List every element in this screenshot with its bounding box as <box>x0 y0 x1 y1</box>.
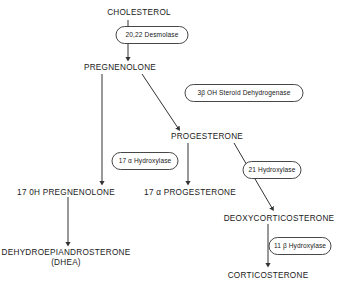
node-deoxycorticosterone: DEOXYCORTICOSTERONE <box>224 214 335 224</box>
enzyme-label-20-22-desmolase: 20,22 Desmolase <box>126 31 179 39</box>
enzyme-label-21-hydroxylase: 21 Hydroxylase <box>249 166 296 174</box>
enzyme-label-3-beta-oh-steroid-dehydrogenase: 3β OH Steroid Dehydrogenase <box>198 89 291 97</box>
node-progesterone: PROGESTERONE <box>171 132 243 142</box>
node-dehydroepiandrosterone: DEHYDROEPIANDROSTERONE <box>2 248 131 258</box>
steroidogenesis-pathway-diagram: CHOLESTEROL PREGNENOLONE PROGESTERONE 17… <box>0 0 342 288</box>
node-cholesterol: CHOLESTEROL <box>107 8 171 18</box>
node-17-alpha-progesterone: 17 α PROGESTERONE <box>144 188 236 198</box>
enzyme-label-11-beta-hydroxylase: 11 β Hydroxylase <box>274 242 326 250</box>
arrow-group <box>68 20 272 264</box>
node-corticosterone: CORTICOSTERONE <box>228 271 309 281</box>
pregnenolone-to-progesterone-arrow <box>142 74 178 128</box>
node-17oh-pregnenolone: 17 0H PREGNENOLONE <box>17 188 115 198</box>
node-dhea-abbreviation: (DHEA) <box>51 258 81 268</box>
enzyme-label-17-alpha-hydroxylase: 17 α Hydroxylase <box>119 157 172 165</box>
node-pregnenolone: PREGNENOLONE <box>84 63 156 73</box>
